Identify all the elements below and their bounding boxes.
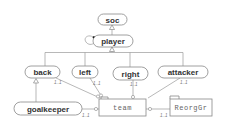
inheritance-arrow-icon	[34, 79, 39, 84]
role-circle-icon	[131, 95, 134, 98]
inheritance-arrow-icon	[110, 47, 115, 52]
cardinality-goalkeeper-team: 1..1	[82, 113, 90, 118]
node-attacker-label: attacker	[168, 68, 199, 77]
node-right-label: right	[122, 70, 140, 79]
inheritance-arrow-icon	[110, 25, 115, 30]
node-soc-label: soc	[106, 16, 120, 25]
node-player-label: player	[101, 37, 125, 46]
role-circle-icon	[94, 107, 97, 110]
node-reorggr[interactable]: ReorgGr	[170, 96, 212, 116]
node-goalkeeper-label: goalkeeper	[27, 105, 69, 114]
edge-attacker-team	[148, 78, 180, 98]
node-attacker[interactable]: attacker	[158, 66, 208, 78]
node-goalkeeper[interactable]: goalkeeper	[14, 102, 82, 115]
cardinality-left-team: 1..1	[93, 81, 101, 86]
node-left[interactable]: left	[72, 66, 98, 78]
node-player[interactable]: player	[93, 35, 133, 47]
cardinality-reorggr-team: 1..1	[160, 113, 168, 118]
role-circle-icon	[148, 107, 151, 110]
cardinality-back-team: 1..1	[54, 80, 62, 85]
node-reorggr-label: ReorgGr	[175, 104, 208, 112]
node-right[interactable]: right	[113, 67, 148, 80]
node-back-label: back	[33, 68, 52, 77]
node-soc[interactable]: soc	[98, 14, 127, 25]
node-left-label: left	[79, 68, 91, 77]
node-team[interactable]: team	[99, 97, 146, 116]
cardinality-right-team: 1..1	[130, 82, 138, 87]
cardinality-attacker-team: 1..1	[180, 80, 188, 85]
node-back[interactable]: back	[25, 66, 60, 78]
node-team-label: team	[113, 104, 132, 112]
diagram-canvas: 1..1 1..1 1..1 1..1 1..1 1..1 soc player…	[0, 0, 227, 125]
